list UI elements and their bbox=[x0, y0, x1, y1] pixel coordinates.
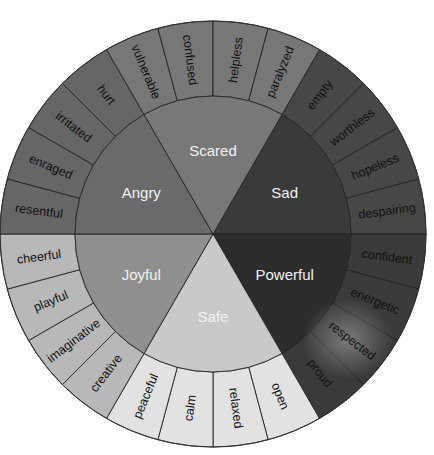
emotion-wheel: SademptyworthlesshopelessdespairingPower… bbox=[0, 0, 434, 455]
sector-label-safe: Safe bbox=[198, 308, 229, 325]
sector-label-powerful: Powerful bbox=[256, 266, 314, 283]
sector-label-scared: Scared bbox=[189, 142, 237, 159]
sector-label-joyful: Joyful bbox=[122, 266, 161, 283]
sector-label-sad: Sad bbox=[271, 184, 298, 201]
sector-label-angry: Angry bbox=[122, 184, 162, 201]
